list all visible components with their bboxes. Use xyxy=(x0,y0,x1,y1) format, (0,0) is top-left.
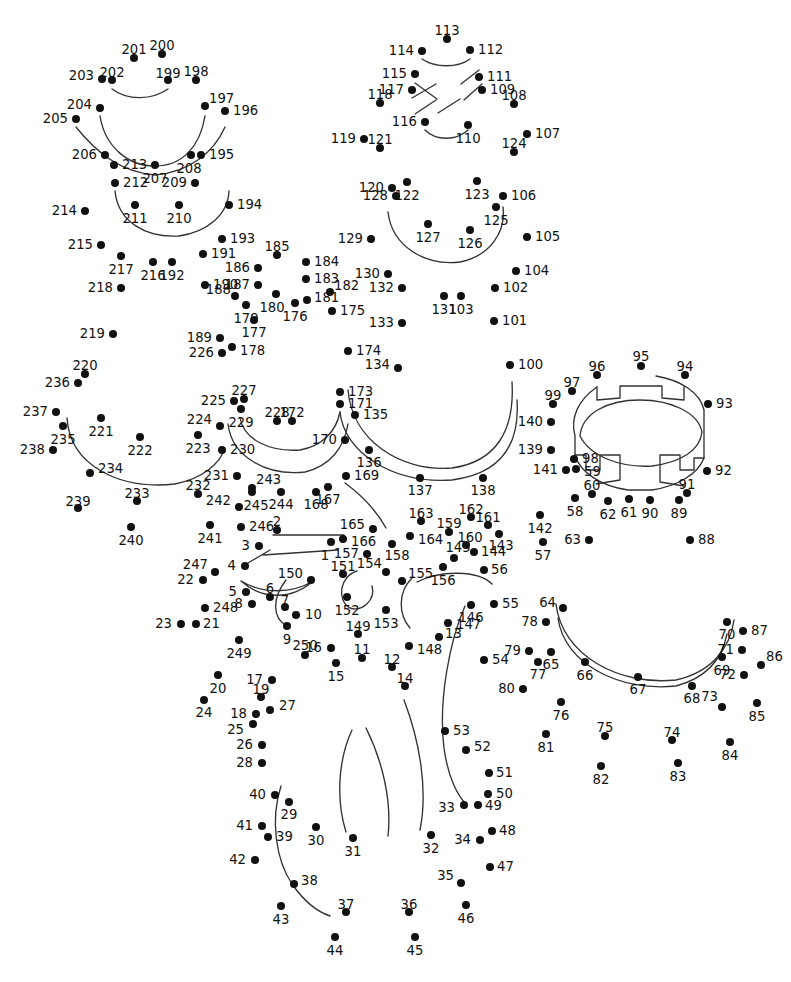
puzzle-dot[interactable] xyxy=(81,207,89,215)
puzzle-dot[interactable] xyxy=(191,179,199,187)
puzzle-dot[interactable] xyxy=(467,601,475,609)
puzzle-dot[interactable] xyxy=(675,496,683,504)
puzzle-dot[interactable] xyxy=(237,405,245,413)
puzzle-dot[interactable] xyxy=(324,483,332,491)
puzzle-dot[interactable] xyxy=(506,361,514,369)
puzzle-dot[interactable] xyxy=(462,746,470,754)
puzzle-dot[interactable] xyxy=(491,284,499,292)
puzzle-dot[interactable] xyxy=(476,836,484,844)
puzzle-dot[interactable] xyxy=(525,647,533,655)
puzzle-dot[interactable] xyxy=(440,292,448,300)
puzzle-dot[interactable] xyxy=(634,673,642,681)
puzzle-dot[interactable] xyxy=(111,179,119,187)
puzzle-dot[interactable] xyxy=(470,548,478,556)
puzzle-dot[interactable] xyxy=(218,446,226,454)
puzzle-dot[interactable] xyxy=(248,488,256,496)
puzzle-dot[interactable] xyxy=(686,536,694,544)
puzzle-dot[interactable] xyxy=(97,414,105,422)
puzzle-dot[interactable] xyxy=(218,349,226,357)
puzzle-dot[interactable] xyxy=(490,600,498,608)
puzzle-dot[interactable] xyxy=(534,658,542,666)
puzzle-dot[interactable] xyxy=(233,472,241,480)
puzzle-dot[interactable] xyxy=(351,411,359,419)
puzzle-dot[interactable] xyxy=(254,281,262,289)
puzzle-dot[interactable] xyxy=(302,258,310,266)
puzzle-dot[interactable] xyxy=(235,636,243,644)
puzzle-dot[interactable] xyxy=(216,422,224,430)
puzzle-dot[interactable] xyxy=(439,563,447,571)
puzzle-dot[interactable] xyxy=(457,879,465,887)
puzzle-dot[interactable] xyxy=(406,532,414,540)
puzzle-dot[interactable] xyxy=(72,115,80,123)
puzzle-dot[interactable] xyxy=(117,252,125,260)
puzzle-dot[interactable] xyxy=(206,521,214,529)
puzzle-dot[interactable] xyxy=(369,525,377,533)
puzzle-dot[interactable] xyxy=(435,633,443,641)
puzzle-dot[interactable] xyxy=(486,863,494,871)
puzzle-dot[interactable] xyxy=(258,759,266,767)
puzzle-dot[interactable] xyxy=(187,151,195,159)
puzzle-dot[interactable] xyxy=(740,671,748,679)
puzzle-dot[interactable] xyxy=(312,823,320,831)
puzzle-dot[interactable] xyxy=(192,620,200,628)
puzzle-dot[interactable] xyxy=(405,642,413,650)
puzzle-dot[interactable] xyxy=(307,576,315,584)
puzzle-dot[interactable] xyxy=(547,648,555,656)
puzzle-dot[interactable] xyxy=(757,661,765,669)
puzzle-dot[interactable] xyxy=(464,121,472,129)
puzzle-dot[interactable] xyxy=(421,118,429,126)
puzzle-dot[interactable] xyxy=(151,161,159,169)
puzzle-dot[interactable] xyxy=(59,422,67,430)
puzzle-dot[interactable] xyxy=(646,496,654,504)
puzzle-dot[interactable] xyxy=(462,901,470,909)
puzzle-dot[interactable] xyxy=(255,542,263,550)
puzzle-dot[interactable] xyxy=(292,611,300,619)
puzzle-dot[interactable] xyxy=(480,656,488,664)
puzzle-dot[interactable] xyxy=(74,379,82,387)
puzzle-dot[interactable] xyxy=(562,466,570,474)
puzzle-dot[interactable] xyxy=(49,446,57,454)
puzzle-dot[interactable] xyxy=(199,250,207,258)
puzzle-dot[interactable] xyxy=(221,107,229,115)
puzzle-dot[interactable] xyxy=(231,292,239,300)
puzzle-dot[interactable] xyxy=(475,73,483,81)
puzzle-dot[interactable] xyxy=(367,235,375,243)
puzzle-dot[interactable] xyxy=(343,593,351,601)
puzzle-dot[interactable] xyxy=(398,577,406,585)
puzzle-dot[interactable] xyxy=(542,618,550,626)
puzzle-dot[interactable] xyxy=(519,685,527,693)
puzzle-dot[interactable] xyxy=(388,540,396,548)
puzzle-dot[interactable] xyxy=(479,474,487,482)
puzzle-dot[interactable] xyxy=(411,70,419,78)
puzzle-dot[interactable] xyxy=(290,880,298,888)
puzzle-dot[interactable] xyxy=(230,397,238,405)
puzzle-dot[interactable] xyxy=(753,699,761,707)
puzzle-dot[interactable] xyxy=(117,284,125,292)
puzzle-dot[interactable] xyxy=(291,299,299,307)
puzzle-dot[interactable] xyxy=(266,706,274,714)
puzzle-dot[interactable] xyxy=(225,201,233,209)
puzzle-dot[interactable] xyxy=(474,801,482,809)
puzzle-dot[interactable] xyxy=(127,523,135,531)
puzzle-dot[interactable] xyxy=(216,334,224,342)
puzzle-dot[interactable] xyxy=(285,798,293,806)
puzzle-dot[interactable] xyxy=(571,494,579,502)
puzzle-dot[interactable] xyxy=(726,738,734,746)
puzzle-dot[interactable] xyxy=(52,408,60,416)
puzzle-dot[interactable] xyxy=(252,710,260,718)
puzzle-dot[interactable] xyxy=(365,446,373,454)
puzzle-dot[interactable] xyxy=(703,467,711,475)
puzzle-dot[interactable] xyxy=(495,530,503,538)
puzzle-dot[interactable] xyxy=(382,606,390,614)
puzzle-dot[interactable] xyxy=(200,696,208,704)
puzzle-dot[interactable] xyxy=(625,495,633,503)
puzzle-dot[interactable] xyxy=(490,317,498,325)
puzzle-dot[interactable] xyxy=(382,568,390,576)
puzzle-dot[interactable] xyxy=(214,671,222,679)
puzzle-dot[interactable] xyxy=(523,233,531,241)
puzzle-dot[interactable] xyxy=(86,469,94,477)
puzzle-dot[interactable] xyxy=(488,827,496,835)
puzzle-dot[interactable] xyxy=(688,682,696,690)
puzzle-dot[interactable] xyxy=(450,554,458,562)
puzzle-dot[interactable] xyxy=(327,644,335,652)
